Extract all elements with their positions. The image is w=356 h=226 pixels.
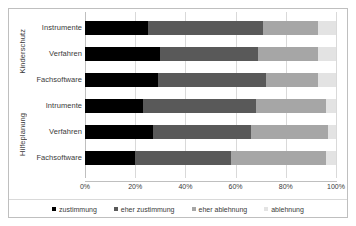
legend-swatch-icon xyxy=(264,207,268,211)
group-label-column: Kinderschutz Hilfeplanung xyxy=(11,12,33,178)
bar-segment xyxy=(231,151,326,165)
category-label: Fachsoftware xyxy=(36,145,82,171)
group-label-hilfeplanung: Hilfeplanung xyxy=(11,91,33,178)
bar-segment xyxy=(318,73,336,87)
legend-swatch-icon xyxy=(192,207,196,211)
bar-segment xyxy=(153,125,251,139)
gridline xyxy=(336,12,337,178)
group-label-text: Hilfeplanung xyxy=(18,113,27,156)
bar-segment xyxy=(318,21,336,35)
bar-row xyxy=(85,41,336,67)
bar-segment xyxy=(135,151,230,165)
group-label-text: Kinderschutz xyxy=(18,29,27,74)
bar-segment xyxy=(318,47,336,61)
legend-item[interactable]: ablehnung xyxy=(264,206,304,213)
bar-segment xyxy=(85,125,153,139)
stacked-bar xyxy=(85,99,336,113)
bar-row xyxy=(85,15,336,41)
category-label: Intrumente xyxy=(46,93,82,119)
stacked-bar xyxy=(85,73,336,87)
bar-segment xyxy=(148,21,263,35)
bar-segment xyxy=(85,73,158,87)
x-axis-tick-label: 0% xyxy=(80,183,90,190)
bar-segment xyxy=(258,47,318,61)
legend-item[interactable]: eher ablehnung xyxy=(192,206,248,213)
x-axis-tick-label: 100% xyxy=(327,183,345,190)
category-label: Verfahren xyxy=(49,119,82,145)
bar-segment xyxy=(158,73,266,87)
legend-swatch-icon xyxy=(52,207,56,211)
plot-area: Kinderschutz Hilfeplanung InstrumenteVer… xyxy=(9,9,347,181)
stacked-bar-chart: Kinderschutz Hilfeplanung InstrumenteVer… xyxy=(8,8,348,218)
bar-segment xyxy=(263,21,318,35)
stacked-bar xyxy=(85,21,336,35)
bar-segment xyxy=(85,21,148,35)
bar-segment xyxy=(143,99,256,113)
bar-row xyxy=(85,67,336,93)
x-axis-line xyxy=(85,181,337,182)
bar-segment xyxy=(326,151,336,165)
stacked-bar xyxy=(85,125,336,139)
legend-label: eher zustimmung xyxy=(121,206,175,213)
stacked-bar xyxy=(85,151,336,165)
legend-item[interactable]: zustimmung xyxy=(52,206,97,213)
bar-segment xyxy=(85,151,135,165)
bars-container xyxy=(85,12,336,178)
legend-label: ablehnung xyxy=(271,206,304,213)
legend-label: zustimmung xyxy=(59,206,97,213)
bar-row xyxy=(85,93,336,119)
bar-segment xyxy=(328,125,336,139)
bar-segment xyxy=(326,99,336,113)
bar-segment xyxy=(266,73,319,87)
x-axis-tick-label: 60% xyxy=(229,183,243,190)
bar-segment xyxy=(256,99,326,113)
legend-item[interactable]: eher zustimmung xyxy=(114,206,175,213)
category-label: Instrumente xyxy=(42,15,82,41)
bar-segment xyxy=(85,99,143,113)
bar-segment xyxy=(251,125,329,139)
bar-segment xyxy=(85,47,160,61)
legend-label: eher ablehnung xyxy=(199,206,248,213)
x-axis-tick-labels: 0%20%40%60%80%100% xyxy=(85,183,336,197)
x-axis-tick-label: 20% xyxy=(128,183,142,190)
chart-legend: zustimmungeher zustimmungeher ablehnunga… xyxy=(9,200,347,218)
bar-row xyxy=(85,145,336,171)
bar-row xyxy=(85,119,336,145)
bar-segment xyxy=(160,47,258,61)
category-label: Fachsoftware xyxy=(36,67,82,93)
x-axis-tick-label: 40% xyxy=(178,183,192,190)
x-axis-tick-label: 80% xyxy=(279,183,293,190)
group-label-kinderschutz: Kinderschutz xyxy=(11,12,33,91)
stacked-bar xyxy=(85,47,336,61)
category-label-column: InstrumenteVerfahrenFachsoftwareIntrumen… xyxy=(33,12,84,178)
category-label: Verfahren xyxy=(49,41,82,67)
legend-swatch-icon xyxy=(114,207,118,211)
